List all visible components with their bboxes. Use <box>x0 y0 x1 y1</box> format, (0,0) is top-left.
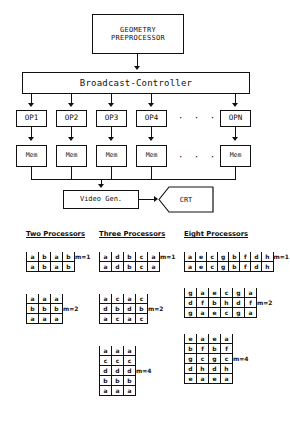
connector-mem4-to-bus <box>151 167 152 179</box>
broadcast-controller-label: Broadcast-Controller <box>80 78 192 88</box>
assignment-cell: g <box>209 354 221 364</box>
assignment-cell: a <box>185 252 196 262</box>
assignment-cell: c <box>100 356 112 366</box>
memory-box-2: Mem <box>56 145 87 167</box>
assignment-cell: a <box>245 288 257 298</box>
connector-op1-to-mem1 <box>31 127 32 137</box>
assignment-cell: e <box>196 262 207 272</box>
assignment-row: aaa <box>100 346 152 356</box>
assignment-cell: a <box>124 294 136 304</box>
assignment-cell: f <box>197 298 209 308</box>
assignment-row: bfbf <box>185 344 249 354</box>
table-section-eight-processors: Eight Processors aecgbfdhm=1aecgbfdhgaec… <box>184 230 290 384</box>
interleave-label: m=1 <box>273 252 289 262</box>
table-heading-three-processors: Three Processors <box>99 230 176 238</box>
assignment-cell: d <box>209 364 221 374</box>
assignment-grid: ababm=1abab <box>26 252 91 272</box>
assignment-cell: b <box>124 262 136 272</box>
assignment-row: gaecga <box>185 288 273 298</box>
assignment-row: bbbm=2 <box>27 304 79 314</box>
video-generator-label: Video Gen. <box>80 195 122 203</box>
assignment-row: gcgcm=4 <box>185 354 249 364</box>
geometry-preprocessor-label-line2: PREPROCESSOR <box>111 34 165 42</box>
assignment-row: eaea <box>185 374 249 384</box>
memory-box-n: Mem <box>220 145 251 167</box>
arrowhead-geometry-to-broadcast <box>134 66 140 70</box>
connector-mem3-to-bus <box>111 167 112 179</box>
assignment-cell: b <box>136 304 148 314</box>
assignment-cell: a <box>148 252 160 262</box>
assignment-block: aaabbbm=2aaa <box>26 294 91 324</box>
memory-label-4: Mem <box>146 152 158 159</box>
connector-memn-to-bus <box>235 167 236 179</box>
processor-box-op2: OP2 <box>56 110 87 127</box>
assignment-cell: a <box>197 334 209 344</box>
video-generator-box: Video Gen. <box>63 190 139 209</box>
processor-label-op4: OP4 <box>145 114 159 123</box>
assignment-cell: e <box>185 374 197 384</box>
assignment-cell: a <box>124 346 136 356</box>
assignment-cell: c <box>112 294 124 304</box>
connector-mem2-to-bus <box>71 167 72 179</box>
assignment-cell: f <box>240 252 251 262</box>
assignment-cell: a <box>100 252 112 262</box>
assignment-cell: a <box>100 314 112 324</box>
assignment-row: aaa <box>100 386 152 396</box>
assignment-cell: a <box>100 262 112 272</box>
ellipsis-processor-row: · · · <box>178 113 218 123</box>
assignment-cell: f <box>197 344 209 354</box>
processor-label-op2: OP2 <box>65 114 79 123</box>
assignment-cell: b <box>39 262 51 272</box>
assignment-cell: a <box>197 288 209 298</box>
assignment-cell: a <box>100 294 112 304</box>
assignment-grid: gaecgadfbhdfm=2gaecga <box>184 288 273 318</box>
assignment-cell: h <box>221 298 233 308</box>
ellipsis-memory-row: · · · <box>178 152 218 162</box>
assignment-row: aecgbfdhm=1 <box>185 252 290 262</box>
assignment-cell: e <box>209 308 221 318</box>
table-section-two-processors: Two Processors ababm=1ababaaabbbm=2aaa <box>26 230 91 324</box>
assignment-cell: a <box>221 374 233 384</box>
geometry-preprocessor-box: GEOMETRY PREPROCESSOR <box>92 14 184 54</box>
crt-display-shape: CRT <box>158 186 214 213</box>
assignment-cell: c <box>197 354 209 364</box>
assignment-cell: h <box>262 262 273 272</box>
assignment-cell: a <box>197 308 209 318</box>
assignment-cell: b <box>209 298 221 308</box>
table-blocks-three-processors: adbcam=1adbcaacacdbdbm=2acacaaacccdddm=4… <box>99 252 176 396</box>
assignment-cell: e <box>209 334 221 344</box>
assignment-cell: g <box>185 354 197 364</box>
memory-box-3: Mem <box>96 145 127 167</box>
assignment-block: aecgbfdhm=1aecgbfdh <box>184 252 290 272</box>
broadcast-controller-box: Broadcast-Controller <box>22 72 250 94</box>
assignment-cell: d <box>112 252 124 262</box>
assignment-cell: a <box>51 262 63 272</box>
assignment-cell: h <box>221 364 233 374</box>
memory-label-n: Mem <box>230 152 242 159</box>
interleave-label: m=2 <box>63 304 79 314</box>
processor-box-op1: OP1 <box>16 110 47 127</box>
connector-op2-to-mem2 <box>71 127 72 137</box>
assignment-cell: a <box>221 334 233 344</box>
figure-canvas: GEOMETRY PREPROCESSOR Broadcast-Controll… <box>0 0 290 434</box>
assignment-cell: a <box>100 386 112 396</box>
assignment-cell: d <box>124 366 136 376</box>
assignment-cell: b <box>100 376 112 386</box>
assignment-cell: a <box>112 346 124 356</box>
assignment-row: aecgbfdh <box>185 262 290 272</box>
assignment-row: ababm=1 <box>27 252 91 262</box>
assignment-cell: c <box>112 314 124 324</box>
assignment-row: bbb <box>100 376 152 386</box>
connector-mem1-to-bus <box>31 167 32 179</box>
assignment-cell: a <box>148 262 160 272</box>
arrowhead-broadcast-to-op4 <box>148 103 154 107</box>
arrowhead-op4-to-mem4 <box>148 137 154 141</box>
assignment-cell: b <box>39 252 51 262</box>
assignment-cell: b <box>112 376 124 386</box>
assignment-cell: b <box>124 252 136 262</box>
interleave-label: m=4 <box>233 354 249 364</box>
assignment-cell: a <box>27 252 39 262</box>
assignment-cell: c <box>221 288 233 298</box>
assignment-cell: g <box>185 288 197 298</box>
arrowhead-broadcast-to-op1 <box>28 103 34 107</box>
